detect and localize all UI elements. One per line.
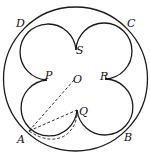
label-P: P	[44, 69, 53, 82]
dashed-line-AQ	[29, 110, 77, 131]
label-A: A	[16, 133, 25, 146]
label-R: R	[99, 70, 108, 83]
label-D: D	[15, 17, 25, 30]
label-B: B	[123, 131, 132, 144]
dashed-arc	[29, 110, 77, 139]
dashed-line-AO	[29, 80, 74, 131]
geometry-diagram: D C S P O R Q A B	[0, 0, 150, 157]
label-Q: Q	[79, 105, 88, 118]
label-S: S	[76, 44, 84, 57]
label-O: O	[73, 73, 82, 86]
label-C: C	[127, 17, 136, 30]
